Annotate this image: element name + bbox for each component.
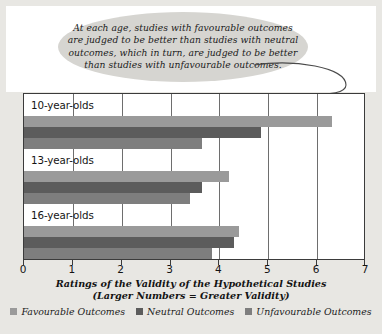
tick-label-6: 6 bbox=[313, 263, 320, 275]
x-axis-title: Ratings of the Validity of the Hypotheti… bbox=[0, 278, 382, 302]
legend-swatch-icon bbox=[136, 308, 143, 315]
legend-item-unfavourable-outcomes: Unfavourable Outcomes bbox=[245, 306, 371, 317]
bar-10-year-olds-favourable-outcomes bbox=[24, 116, 332, 127]
x-axis-title-line1: Ratings of the Validity of the Hypotheti… bbox=[0, 278, 382, 290]
tick-label-7: 7 bbox=[362, 263, 369, 275]
legend-item-neutral-outcomes: Neutral Outcomes bbox=[136, 306, 234, 317]
bar-10-year-olds-neutral-outcomes bbox=[24, 127, 261, 138]
tick-label-3: 3 bbox=[166, 263, 173, 275]
legend-item-favourable-outcomes: Favourable Outcomes bbox=[10, 306, 125, 317]
group-label-10-year-olds: 10-year-olds bbox=[31, 99, 94, 111]
x-axis-title-line2: (Larger Numbers = Greater Validity) bbox=[0, 290, 382, 302]
bar-13-year-olds-neutral-outcomes bbox=[24, 182, 202, 193]
bar-group: 13-year-olds bbox=[24, 151, 364, 204]
bar-16-year-olds-neutral-outcomes bbox=[24, 237, 234, 248]
legend-swatch-icon bbox=[10, 308, 17, 315]
group-label-13-year-olds: 13-year-olds bbox=[31, 154, 94, 166]
callout-line-1: At each age, studies with favourable out… bbox=[62, 22, 304, 34]
tick-label-4: 4 bbox=[215, 263, 222, 275]
bar-group: 16-year-olds bbox=[24, 206, 364, 259]
chart-page: At each age, studies with favourable out… bbox=[0, 0, 382, 334]
bar-group: 10-year-olds bbox=[24, 96, 364, 149]
legend-label: Favourable Outcomes bbox=[21, 306, 125, 317]
legend-label: Neutral Outcomes bbox=[147, 306, 234, 317]
tick-label-5: 5 bbox=[264, 263, 271, 275]
legend-swatch-icon bbox=[245, 308, 252, 315]
legend-label: Unfavourable Outcomes bbox=[256, 306, 371, 317]
bar-16-year-olds-unfavourable-outcomes bbox=[24, 248, 212, 259]
legend: Favourable OutcomesNeutral OutcomesUnfav… bbox=[0, 306, 382, 317]
bar-10-year-olds-unfavourable-outcomes bbox=[24, 138, 202, 149]
tick-label-0: 0 bbox=[20, 263, 27, 275]
bar-16-year-olds-favourable-outcomes bbox=[24, 226, 239, 237]
plot-area: 10-year-olds13-year-olds16-year-olds bbox=[23, 93, 365, 260]
tick-label-2: 2 bbox=[117, 263, 124, 275]
group-label-16-year-olds: 16-year-olds bbox=[31, 209, 94, 221]
x-axis-labels: 01234567 bbox=[0, 263, 382, 279]
bar-13-year-olds-favourable-outcomes bbox=[24, 171, 229, 182]
tick-label-1: 1 bbox=[69, 263, 76, 275]
bar-13-year-olds-unfavourable-outcomes bbox=[24, 193, 190, 204]
